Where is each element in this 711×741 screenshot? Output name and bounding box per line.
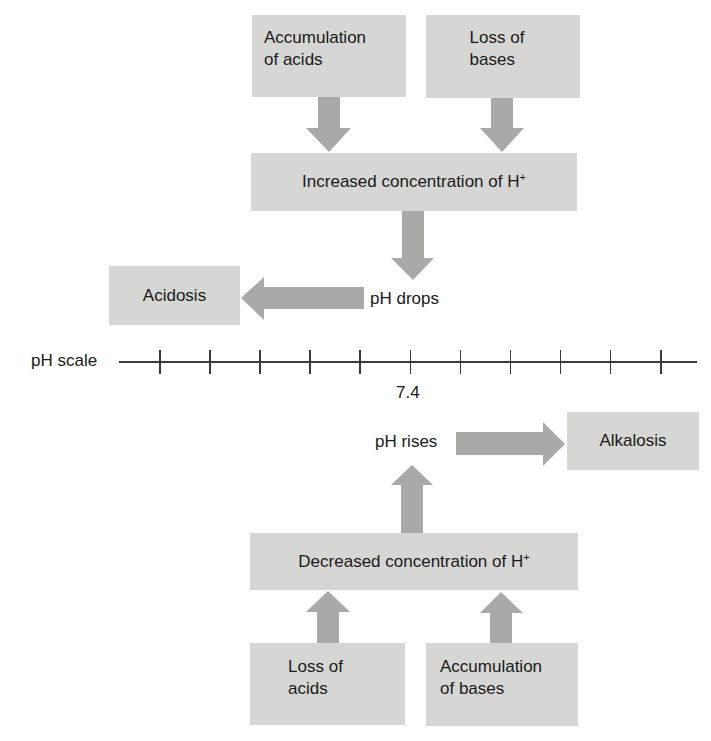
superscript-plus: + <box>519 171 525 183</box>
ph-drops-label: pH drops <box>370 289 439 309</box>
cause-line1: Accumulation <box>440 656 542 678</box>
ph-scale-tick <box>510 350 512 374</box>
cause-line2: of acids <box>264 49 366 71</box>
ph-marker-value: 7.4 <box>396 383 420 403</box>
cause-line2: of bases <box>440 678 542 700</box>
ph-scale-tick <box>309 350 311 374</box>
ph-scale-tick <box>560 350 562 374</box>
alkalosis-label: Alkalosis <box>599 430 666 452</box>
arrow-up-loss-acids-icon <box>306 591 350 643</box>
acidosis-box: Acidosis <box>109 266 240 325</box>
arrow-up-ph-rises-icon <box>391 465 433 533</box>
cause-loss-of-acids: Loss of acids <box>250 643 405 725</box>
cause-loss-of-bases: Loss of bases <box>426 15 580 98</box>
decreased-h-concentration-box: Decreased concentration of H+ <box>250 533 578 590</box>
cause-line2: bases <box>470 49 525 71</box>
ph-scale-tick <box>159 350 161 374</box>
increased-h-concentration-box: Increased concentration of H+ <box>251 153 577 211</box>
increased-text: Increased concentration of H <box>302 172 519 191</box>
ph-scale-tick <box>610 350 612 374</box>
ph-scale-tick <box>209 350 211 374</box>
ph-scale-tick <box>660 350 662 374</box>
ph-scale-tick <box>359 350 361 374</box>
ph-scale-label: pH scale <box>31 351 97 371</box>
acidosis-label: Acidosis <box>143 285 206 307</box>
ph-rises-label: pH rises <box>375 432 437 452</box>
arrow-down-acids-icon <box>306 97 351 152</box>
ph-scale-tick <box>460 350 462 374</box>
arrow-down-ph-drops-icon <box>391 211 434 280</box>
arrow-left-acidosis-icon <box>241 277 364 320</box>
cause-accumulation-of-acids: Accumulation of acids <box>252 15 406 97</box>
cause-line1: Loss of <box>288 656 343 678</box>
arrow-down-bases-icon <box>480 98 524 152</box>
cause-accumulation-of-bases: Accumulation of bases <box>426 643 578 726</box>
superscript-plus: + <box>523 551 529 563</box>
arrow-right-alkalosis-icon <box>456 422 565 466</box>
ph-scale-tick <box>259 350 261 374</box>
alkalosis-box: Alkalosis <box>567 412 699 470</box>
cause-line1: Loss of <box>470 27 525 49</box>
arrow-up-accum-bases-icon <box>480 592 523 644</box>
decreased-text: Decreased concentration of H <box>298 552 523 571</box>
cause-line2: acids <box>288 678 343 700</box>
cause-line1: Accumulation <box>264 27 366 49</box>
arrow-layer <box>0 0 711 741</box>
ph-scale-tick <box>410 350 412 374</box>
